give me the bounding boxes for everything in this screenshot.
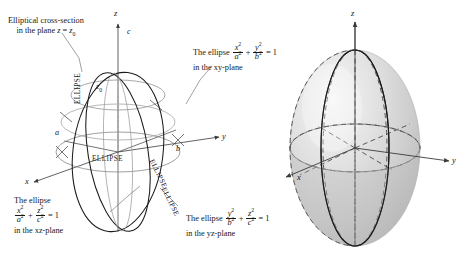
ellipsoid-figure: z y x c a b z0 ELLIPSE ELLIPSE ELLIPSE E… (0, 0, 475, 269)
y-axis-label-right: y (452, 155, 456, 165)
x-axis-label-right: x (297, 172, 301, 182)
z-axis-label-right: z (351, 8, 354, 18)
right-diagram-graphics (0, 0, 475, 269)
